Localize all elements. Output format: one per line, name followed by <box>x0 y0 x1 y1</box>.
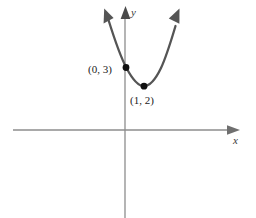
y-axis-label: y <box>130 6 136 18</box>
point-label-vertex: (1, 2) <box>130 94 154 107</box>
parabola-curve <box>109 20 176 86</box>
y-axis-arrowhead <box>121 6 131 19</box>
graph-figure: x y (0, 3) (1, 2) <box>0 0 256 218</box>
x-axis-label: x <box>232 134 238 146</box>
parabola-plot: x y (0, 3) (1, 2) <box>0 0 256 218</box>
point-label-y-intercept: (0, 3) <box>88 63 112 76</box>
point-marker-y-intercept <box>123 64 130 71</box>
parabola-right-arrowhead <box>169 9 180 24</box>
point-marker-vertex <box>141 83 148 90</box>
